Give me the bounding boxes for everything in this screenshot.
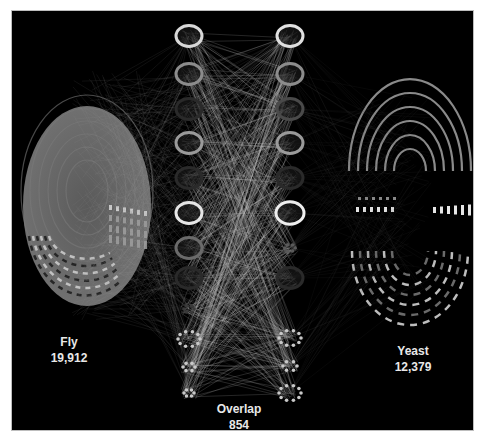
- yeast-name: Yeast: [368, 343, 458, 359]
- yeast-count: 12,379: [368, 359, 458, 375]
- fly-count: 19,912: [24, 350, 114, 366]
- yeast-label: Yeast 12,379: [368, 343, 458, 375]
- overlap-count: 854: [194, 417, 284, 431]
- overlap-name: Overlap: [194, 401, 284, 417]
- network-diagram-panel: Fly 19,912 Yeast 12,379 Overlap 854: [11, 10, 474, 431]
- overlap-label: Overlap 854: [194, 401, 284, 431]
- fly-name: Fly: [24, 334, 114, 350]
- fly-label: Fly 19,912: [24, 334, 114, 366]
